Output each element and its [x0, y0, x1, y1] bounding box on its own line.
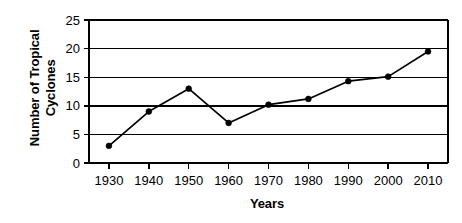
tropical-cyclones-line-chart: Number of Tropical Cyclones 0510152025 1… [0, 0, 462, 223]
y-tick-label-10: 10 [66, 98, 80, 113]
data-point-1950 [186, 86, 192, 92]
data-point-2010 [425, 49, 431, 55]
y-tick-label-15: 15 [66, 70, 80, 85]
x-tick-label-1990: 1990 [334, 173, 363, 188]
data-point-1930 [106, 143, 112, 149]
y-tick-label-25: 25 [66, 13, 80, 28]
x-tick-label-1930: 1930 [94, 173, 123, 188]
x-tick-label-1980: 1980 [294, 173, 323, 188]
x-tick-label-2010: 2010 [414, 173, 443, 188]
data-point-1980 [305, 96, 311, 102]
series-polyline [109, 51, 428, 145]
y-tick-label-5: 5 [73, 127, 80, 142]
y-tick-label-0: 0 [73, 156, 80, 171]
x-tick-label-2000: 2000 [374, 173, 403, 188]
plot-frame [89, 20, 448, 163]
x-tick-label-1940: 1940 [134, 173, 163, 188]
data-series [109, 51, 428, 145]
x-axis-title: Years [86, 196, 448, 211]
data-point-1940 [146, 109, 152, 115]
y-tick-label-20: 20 [66, 41, 80, 56]
data-point-1990 [345, 78, 351, 84]
data-point-2000 [385, 74, 391, 80]
y-axis-ticks: 0510152025 [66, 13, 89, 171]
data-point-1960 [226, 120, 232, 126]
data-point-1970 [266, 102, 272, 108]
plot-area: 0510152025 19301940195019601970198019902… [0, 0, 462, 223]
x-tick-label-1970: 1970 [254, 173, 283, 188]
x-axis-ticks: 193019401950196019701980199020002010 [94, 163, 442, 188]
x-tick-label-1950: 1950 [174, 173, 203, 188]
x-tick-label-1960: 1960 [214, 173, 243, 188]
